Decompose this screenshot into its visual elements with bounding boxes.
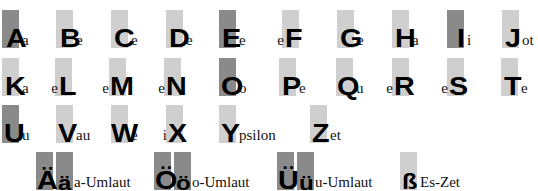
pronunciation-suffix: e: [131, 128, 138, 143]
umlaut-label: a-Umlaut: [74, 175, 131, 190]
eszett-cell: ßEs-Zet: [400, 152, 490, 190]
umlaut-cell-ue: Üüu-Umlaut: [277, 152, 397, 190]
capital-letter: S: [449, 74, 467, 99]
capital-letter: Y: [221, 121, 239, 146]
eszett-label: Es-Zet: [420, 175, 460, 190]
pronunciation-prefix: e: [51, 81, 58, 96]
letter-cell-h: Ha: [392, 10, 452, 48]
capital-letter: U: [4, 121, 24, 146]
pronunciation-prefix: i: [163, 128, 167, 143]
letter-cell-u: Uu: [2, 105, 62, 143]
pronunciation-suffix: u: [356, 81, 364, 96]
umlaut-lowercase: ü: [299, 172, 313, 191]
umlaut-label: o-Umlaut: [192, 175, 250, 190]
umlaut-cell-ae: Ääa-Umlaut: [36, 152, 156, 190]
letter-cell-s: eS: [447, 58, 507, 96]
letter-cell-z: Zet: [310, 105, 370, 143]
capital-letter: F: [285, 26, 301, 51]
letter-cell-j: Jot: [502, 10, 538, 48]
capital-letter: V: [58, 121, 76, 146]
pronunciation-suffix: e: [357, 33, 364, 48]
pronunciation-suffix: a: [412, 33, 419, 48]
letter-cell-g: Ge: [337, 10, 397, 48]
capital-letter: J: [505, 26, 520, 51]
capital-letter: Z: [312, 121, 328, 146]
pronunciation-suffix: a: [22, 33, 29, 48]
umlaut-lowercase: ä: [58, 172, 70, 191]
letter-cell-y: Ypsilon: [219, 105, 279, 143]
letter-cell-p: Pe: [279, 58, 339, 96]
pronunciation-suffix: e: [299, 81, 306, 96]
umlaut-uppercase: Ö: [155, 168, 176, 191]
letter-cell-v: Vau: [56, 105, 116, 143]
pronunciation-suffix: ot: [522, 33, 534, 48]
pronunciation-suffix: et: [330, 128, 341, 143]
letter-cell-o: Oo: [219, 58, 279, 96]
letter-cell-b: Be: [56, 10, 116, 48]
letter-cell-e: Ee: [219, 10, 279, 48]
pronunciation-suffix: au: [76, 128, 90, 143]
pronunciation-prefix: e: [386, 81, 393, 96]
capital-letter: I: [457, 26, 464, 51]
pronunciation-suffix: a: [22, 81, 29, 96]
umlaut-uppercase: Ä: [37, 168, 57, 191]
pronunciation-suffix: u: [22, 128, 30, 143]
capital-letter: P: [282, 74, 300, 99]
letter-cell-n: eN: [164, 58, 224, 96]
umlaut-label: u-Umlaut: [315, 175, 373, 190]
letter-cell-i: Ii: [447, 10, 507, 48]
letter-cell-x: iX: [166, 105, 226, 143]
pronunciation-prefix: e: [277, 33, 284, 48]
pronunciation-suffix: e: [521, 81, 528, 96]
pronunciation-prefix: e: [441, 81, 448, 96]
pronunciation-prefix: e: [102, 81, 109, 96]
pronunciation-suffix: e: [76, 33, 83, 48]
capital-letter: T: [504, 74, 520, 99]
umlaut-uppercase: Ü: [278, 168, 298, 191]
pronunciation-suffix: e: [186, 33, 193, 48]
pronunciation-suffix: e: [239, 33, 246, 48]
pronunciation-suffix: i: [467, 33, 471, 48]
capital-letter: L: [59, 74, 75, 99]
letter-cell-c: Ce: [111, 10, 171, 48]
capital-letter: M: [110, 74, 133, 99]
pronunciation-prefix: e: [158, 81, 165, 96]
eszett-letter: ß: [402, 171, 416, 191]
letter-cell-a: Aa: [2, 10, 62, 48]
capital-letter: N: [166, 74, 186, 99]
capital-letter: X: [168, 121, 186, 146]
letter-cell-t: Te: [501, 58, 538, 96]
umlaut-lowercase: ö: [176, 172, 190, 191]
letter-cell-d: De: [166, 10, 226, 48]
umlaut-cell-oe: Ööo-Umlaut: [154, 152, 274, 190]
capital-letter: E: [222, 26, 240, 51]
pronunciation-suffix: e: [131, 33, 138, 48]
capital-letter: R: [394, 74, 414, 99]
pronunciation-suffix: psilon: [239, 128, 276, 143]
pronunciation-suffix: o: [239, 81, 247, 96]
letter-cell-f: eF: [282, 10, 342, 48]
